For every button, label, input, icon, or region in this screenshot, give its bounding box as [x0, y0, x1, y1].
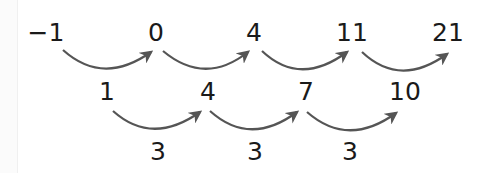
sequence-term: −1: [28, 20, 65, 45]
first-difference: 1: [99, 79, 115, 104]
arrow-icon: [63, 50, 151, 69]
sequence-term: 0: [148, 20, 164, 45]
arrow-icon: [262, 51, 347, 69]
sequence-term: 4: [246, 20, 262, 45]
second-difference: 3: [150, 139, 166, 164]
arrow-icon: [307, 112, 396, 130]
sequence-term: 21: [432, 20, 464, 45]
first-difference: 7: [298, 79, 314, 104]
arrow-icon: [362, 52, 447, 71]
arrow-icon: [163, 51, 248, 69]
first-difference: 10: [389, 79, 421, 104]
second-difference: 3: [247, 139, 263, 164]
first-difference: 4: [200, 79, 216, 104]
number-sequence-diagram: −1 0 4 11 21 1 4 7 10 3 3 3: [0, 0, 484, 173]
arrow-icon: [210, 111, 297, 129]
second-difference: 3: [342, 139, 358, 164]
sequence-term: 11: [336, 20, 368, 45]
arrow-icon: [113, 111, 200, 129]
